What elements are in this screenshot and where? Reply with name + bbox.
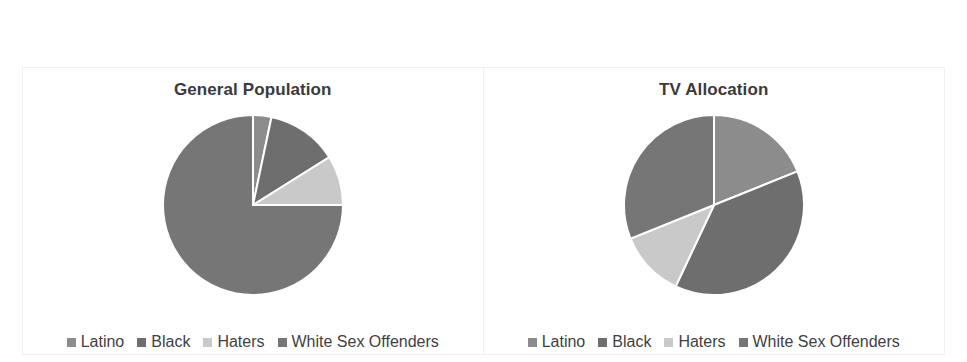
charts-container: General Population LatinoBlackHatersWhit… bbox=[22, 67, 945, 355]
square-marker-icon bbox=[67, 338, 76, 347]
chart-title-tv-allocation: TV Allocation bbox=[484, 80, 945, 100]
chart-panel-general-population: General Population LatinoBlackHatersWhit… bbox=[23, 68, 484, 354]
square-marker-icon bbox=[137, 338, 146, 347]
square-marker-icon bbox=[278, 338, 287, 347]
square-marker-icon bbox=[528, 338, 537, 347]
chart-title-general-population: General Population bbox=[23, 80, 483, 100]
square-marker-icon bbox=[203, 338, 212, 347]
square-marker-icon bbox=[739, 338, 748, 347]
legend-item-white-sex-offenders: White Sex Offenders bbox=[278, 334, 439, 350]
legend-item-haters: Haters bbox=[664, 334, 725, 350]
legend-item-label: White Sex Offenders bbox=[292, 334, 439, 350]
legend-item-label: Haters bbox=[217, 334, 264, 350]
pie-svg-general-population bbox=[161, 113, 345, 297]
square-marker-icon bbox=[598, 338, 607, 347]
legend-item-black: Black bbox=[137, 334, 190, 350]
legend-item-label: Latino bbox=[542, 334, 586, 350]
chart-panel-tv-allocation: TV Allocation LatinoBlackHatersWhite Sex… bbox=[484, 68, 945, 354]
legend-item-label: Black bbox=[612, 334, 651, 350]
legend-item-haters: Haters bbox=[203, 334, 264, 350]
legend-item-black: Black bbox=[598, 334, 651, 350]
legend-item-label: White Sex Offenders bbox=[753, 334, 900, 350]
pie-chart-tv-allocation bbox=[484, 113, 945, 297]
legend-item-label: Black bbox=[151, 334, 190, 350]
pie-svg-tv-allocation bbox=[622, 113, 806, 297]
square-marker-icon bbox=[664, 338, 673, 347]
legend-general-population: LatinoBlackHatersWhite Sex Offenders bbox=[23, 334, 483, 350]
legend-item-white-sex-offenders: White Sex Offenders bbox=[739, 334, 900, 350]
legend-item-latino: Latino bbox=[528, 334, 586, 350]
legend-tv-allocation: LatinoBlackHatersWhite Sex Offenders bbox=[484, 334, 945, 350]
legend-item-label: Haters bbox=[678, 334, 725, 350]
legend-item-label: Latino bbox=[81, 334, 125, 350]
legend-item-latino: Latino bbox=[67, 334, 125, 350]
pie-chart-general-population bbox=[23, 113, 483, 297]
